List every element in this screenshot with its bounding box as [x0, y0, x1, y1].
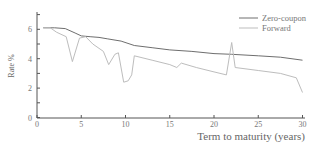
y-tick-label: 2: [28, 84, 32, 93]
x-tick-label: 10: [122, 120, 130, 129]
x-axis-title: Term to maturity (years): [197, 130, 305, 143]
y-tick-label: 4: [28, 55, 32, 64]
x-tick-label: 25: [254, 120, 262, 129]
legend-label-forward: Forward: [262, 23, 292, 33]
y-ticks: 0246: [28, 15, 40, 123]
x-tick-label: 30: [299, 120, 307, 129]
y-tick-label: 0: [28, 114, 32, 123]
x-tick-label: 15: [166, 120, 174, 129]
y-tick-label: 6: [28, 25, 32, 34]
x-tick-label: 5: [79, 120, 83, 129]
series-line-forward: [43, 28, 302, 93]
plot-area: [43, 28, 302, 93]
y-axis-title: Rate %: [7, 54, 16, 78]
legend: Zero-coupon Forward: [239, 13, 307, 33]
line-chart: 051015202530 0246 Rate % Term to maturit…: [0, 0, 325, 153]
x-tick-label: 0: [35, 120, 39, 129]
x-tick-label: 20: [210, 120, 218, 129]
x-ticks: 051015202530: [35, 115, 307, 129]
legend-label-zero-coupon: Zero-coupon: [262, 13, 307, 23]
